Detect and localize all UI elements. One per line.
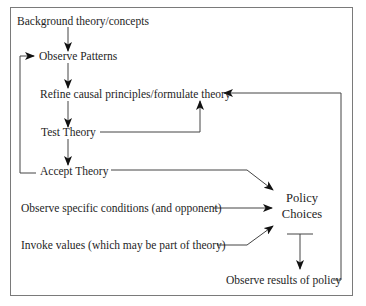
node-refine-theory: Refine causal principles/formulate theor… <box>40 88 231 101</box>
arrow-accept-to-observe-patterns <box>20 56 36 173</box>
arrow-results-to-refine <box>224 93 341 280</box>
arrow-test-to-refine <box>100 101 200 132</box>
node-test-theory: Test Theory <box>41 126 96 139</box>
node-background-theory: Background theory/concepts <box>17 15 149 28</box>
node-invoke-values: Invoke values (which may be part of theo… <box>21 239 226 252</box>
node-observe-conditions: Observe specific conditions (and opponen… <box>21 202 222 215</box>
node-policy-choices: Policy Choices <box>277 190 327 222</box>
node-observe-patterns: Observe Patterns <box>39 50 117 63</box>
policy-line-2: Choices <box>277 206 327 222</box>
node-accept-theory: Accept Theory <box>40 165 108 178</box>
connectors <box>0 0 366 306</box>
node-observe-results: Observe results of policy <box>226 274 341 287</box>
arrow-accept-to-policy <box>111 170 273 190</box>
policy-line-1: Policy <box>277 190 327 206</box>
